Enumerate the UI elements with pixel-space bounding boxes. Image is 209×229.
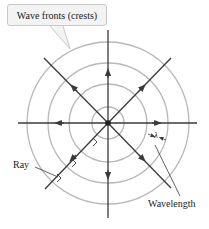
wave-fronts-callout: Wave fronts (crests) [7, 4, 107, 26]
arrow-down-right-icon [139, 155, 143, 159]
ray-down-left [45, 123, 108, 189]
right-angle-markers [57, 138, 97, 182]
wavelength-leader [155, 145, 180, 196]
ray-label: Ray [13, 160, 29, 170]
lambda-arrow-left-icon [148, 134, 153, 136]
point-source [105, 120, 111, 126]
callout-tail [50, 26, 70, 49]
arrow-up-right-icon [139, 87, 143, 91]
lambda-symbol: λ [154, 131, 158, 140]
wave-diagram [0, 0, 209, 229]
wavelength-label: Wavelength [148, 199, 196, 209]
